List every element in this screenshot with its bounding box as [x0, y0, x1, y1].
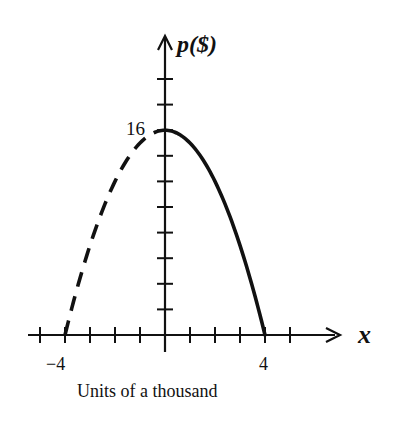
dashed-curve	[65, 130, 165, 335]
axes	[28, 36, 340, 352]
x-tick-label-4: 4	[259, 354, 268, 374]
chart-caption: Units of a thousand	[77, 381, 217, 401]
y-tick-label-16: 16	[126, 118, 145, 139]
x-axis-label: x	[357, 320, 371, 349]
x-tick-label-neg4: −4	[46, 354, 65, 374]
y-axis-label: p($)	[175, 31, 217, 57]
solid-curve	[165, 130, 265, 335]
parabola-chart: p($) x 16 −4 4 Units of a thousand	[0, 0, 399, 421]
